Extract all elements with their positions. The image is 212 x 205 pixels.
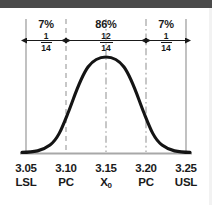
x-tick-x0-symbol: X <box>100 176 107 188</box>
process-capability-chart: 7% 1 14 86% 12 14 7% 1 14 3.05 LSL 3.10 … <box>0 0 212 205</box>
segment-fraction-3-numerator: 1 <box>146 32 186 41</box>
segment-fraction-3-denominator: 14 <box>146 44 186 53</box>
x-tick-x0-subscript: 0 <box>108 181 112 190</box>
x-tick-lsl-name: LSL <box>4 175 48 189</box>
x-tick-pc-high-name: PC <box>124 175 168 189</box>
x-tick-x0: 3.15 X0 <box>84 161 128 191</box>
segment-fraction-3: 1 14 <box>146 32 186 52</box>
x-tick-lsl: 3.05 LSL <box>4 161 48 189</box>
x-tick-usl-value: 3.25 <box>164 161 208 175</box>
x-tick-x0-name: X0 <box>84 175 128 191</box>
segment-fraction-1-denominator: 14 <box>26 44 66 53</box>
x-tick-pc-low-name: PC <box>44 175 88 189</box>
segment-percent-3: 7% <box>146 19 186 30</box>
x-tick-pc-low-value: 3.10 <box>44 161 88 175</box>
x-tick-x0-value: 3.15 <box>84 161 128 175</box>
x-tick-pc-high-value: 3.20 <box>124 161 168 175</box>
x-tick-usl: 3.25 USL <box>164 161 208 189</box>
segment-fraction-1: 1 14 <box>26 32 66 52</box>
x-tick-pc-high: 3.20 PC <box>124 161 168 189</box>
x-tick-pc-low: 3.10 PC <box>44 161 88 189</box>
segment-fraction-2: 12 14 <box>86 32 126 52</box>
x-tick-usl-name: USL <box>164 175 208 189</box>
segment-fraction-1-numerator: 1 <box>26 32 66 41</box>
segment-percent-1: 7% <box>26 19 66 30</box>
segment-fraction-2-numerator: 12 <box>86 32 126 41</box>
x-tick-lsl-value: 3.05 <box>4 161 48 175</box>
segment-fraction-2-denominator: 14 <box>86 44 126 53</box>
segment-percent-2: 86% <box>86 19 126 30</box>
